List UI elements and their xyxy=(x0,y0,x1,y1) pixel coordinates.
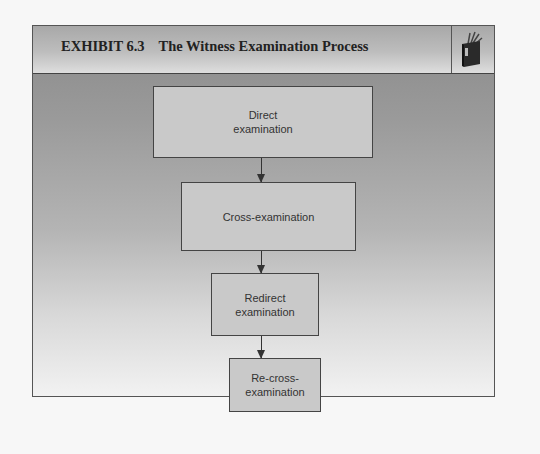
header-divider xyxy=(451,26,452,73)
exhibit-title: EXHIBIT 6.3The Witness Examination Proce… xyxy=(61,38,368,55)
down-arrow-icon xyxy=(261,158,262,182)
step-label-line2: examination xyxy=(235,305,294,319)
exhibit-frame: EXHIBIT 6.3The Witness Examination Proce… xyxy=(32,25,495,397)
step-label-line1: Cross-examination xyxy=(223,210,315,224)
step-cross-examination: Cross-examination xyxy=(181,182,356,251)
step-label-line2: examination xyxy=(245,385,304,399)
step-label-line1: Re-cross- xyxy=(245,371,304,385)
step-label-line1: Redirect xyxy=(235,291,294,305)
down-arrow-icon xyxy=(261,251,262,273)
exhibit-number: EXHIBIT 6.3 xyxy=(61,38,145,54)
down-arrow-icon xyxy=(261,336,262,358)
step-label-line2: examination xyxy=(233,122,292,136)
exhibit-title-text: The Witness Examination Process xyxy=(159,38,369,54)
step-label-line1: Direct xyxy=(233,108,292,122)
step-direct-examination: Direct examination xyxy=(153,86,373,158)
step-redirect-examination: Redirect examination xyxy=(211,273,319,336)
exhibit-header: EXHIBIT 6.3The Witness Examination Proce… xyxy=(33,26,494,74)
step-re-cross-examination: Re-cross- examination xyxy=(229,358,321,412)
book-icon xyxy=(456,30,486,70)
